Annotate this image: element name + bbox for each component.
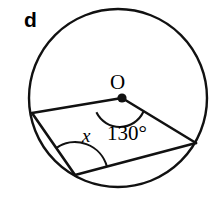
part-letter-label: d [24, 9, 37, 30]
center-point-label: O [110, 72, 125, 93]
geometry-figure: d O x 130° [0, 0, 223, 197]
inscribed-angle-label: x [82, 126, 90, 145]
central-angle-label: 130° [107, 123, 147, 144]
center-point-dot [117, 93, 126, 102]
